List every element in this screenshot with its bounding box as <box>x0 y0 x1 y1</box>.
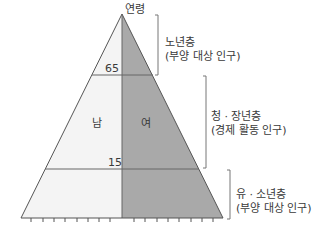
age-axis-label: 연령 <box>125 3 145 16</box>
youth-bracket <box>227 170 230 219</box>
age-15-label: 15 <box>108 156 122 169</box>
female-label: 여 <box>141 117 151 130</box>
youth-group-description: (부양 대상 인구) <box>236 202 312 215</box>
working-age-group-name: 청 · 장년층 <box>211 110 262 123</box>
population-pyramid-diagram: 연령 65 15 남 여 노년층 (부양 대상 인구) 청 · 장년층 (경제 … <box>0 0 328 236</box>
working-age-group-description: (경제 활동 인구) <box>211 124 287 137</box>
base-ticks <box>31 218 213 222</box>
male-label: 남 <box>92 117 102 130</box>
working-age-bracket <box>203 76 206 168</box>
youth-group-name: 유 · 소년층 <box>236 188 287 201</box>
elderly-group-description: (부양 대상 인구) <box>165 50 241 63</box>
age-65-label: 65 <box>105 62 119 75</box>
elderly-group-name: 노년층 <box>165 36 195 49</box>
elderly-bracket <box>155 15 158 75</box>
